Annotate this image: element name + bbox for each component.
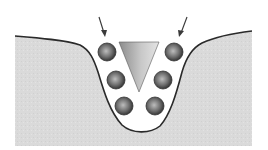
- sphere-right-bottom: [146, 97, 164, 115]
- diagram-canvas: [0, 0, 268, 150]
- groove-diagram: [0, 0, 268, 150]
- sphere-left-middle: [107, 71, 125, 89]
- sphere-right-top: [165, 43, 183, 61]
- wedge-cone: [119, 42, 159, 92]
- sphere-left-top: [98, 43, 116, 61]
- sphere-right-middle: [154, 71, 172, 89]
- right-arrow-icon: [178, 17, 187, 37]
- sphere-left-bottom: [115, 97, 133, 115]
- left-arrow-icon: [99, 17, 107, 37]
